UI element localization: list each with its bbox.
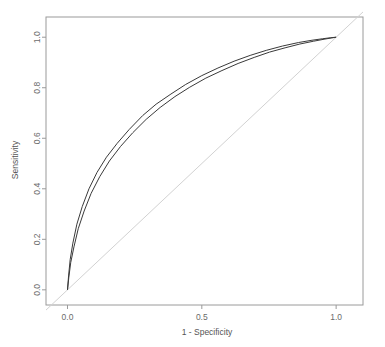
- y-tick-label-1.0: 1.0: [32, 31, 42, 43]
- x-tick-label-1.0: 1.0: [330, 312, 342, 322]
- x-axis-title: 1 - Specificity: [182, 327, 233, 337]
- y-tick-label-0.0: 0.0: [32, 284, 42, 296]
- x-tick-label-0.0: 0.0: [62, 312, 74, 322]
- y-tick-label-0.4: 0.4: [32, 183, 42, 195]
- y-tick-label-0.8: 0.8: [32, 82, 42, 94]
- y-axis-title: Sensitivity: [10, 140, 20, 179]
- y-tick-label-0.6: 0.6: [32, 132, 42, 144]
- plot-background: [0, 0, 385, 347]
- roc-plot-figure: 0.00.51.0 0.00.20.40.60.81.0 1 - Specifi…: [0, 0, 385, 347]
- roc-plot-canvas: 0.00.51.0 0.00.20.40.60.81.0 1 - Specifi…: [0, 0, 385, 347]
- x-tick-label-0.5: 0.5: [196, 312, 208, 322]
- y-tick-label-0.2: 0.2: [32, 233, 42, 245]
